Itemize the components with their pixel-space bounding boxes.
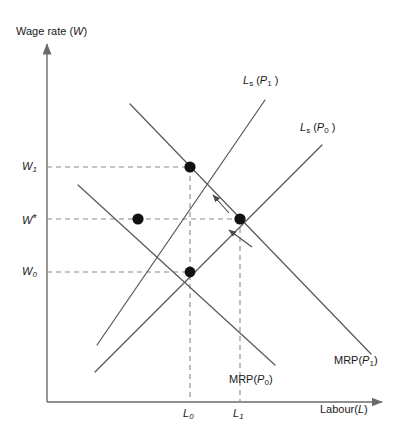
curve-label-ls-p1: Ls (P1 ) — [243, 75, 278, 88]
y-tick-label-w0: W0 — [22, 266, 37, 279]
dashed-guides-group — [47, 167, 240, 402]
x-axis-title: Labour(L) — [320, 404, 368, 415]
demand-curve-mrp-p0 — [78, 185, 275, 365]
equilibrium-point-initial — [132, 213, 143, 224]
y-tick-label-w1: W1 — [22, 161, 37, 174]
axis-group — [47, 44, 382, 402]
y-axis-title: Wage rate (W) — [16, 26, 87, 37]
curve-label-ls-p0: Ls (P0 ) — [300, 122, 335, 135]
economics-diagram: Wage rate (W) Labour(L) W1 W* W0 L0 L1 L… — [0, 0, 416, 441]
equilibrium-point-lower — [185, 267, 196, 278]
curve-label-mrp-p1: MRP(P1) — [334, 355, 378, 368]
demand-curve-mrp-p1 — [130, 104, 371, 354]
supply-curve-ls-p0 — [95, 145, 322, 372]
curve-label-mrp-p0: MRP(P0) — [229, 374, 273, 387]
y-tick-label-wstar: W* — [22, 213, 37, 226]
x-tick-label-l1: L1 — [233, 408, 244, 421]
chart-canvas — [0, 0, 416, 441]
equilibrium-point-right — [234, 213, 245, 224]
curves-group — [78, 100, 371, 372]
x-tick-label-l0: L0 — [183, 408, 194, 421]
equilibrium-point-upper — [184, 161, 195, 172]
